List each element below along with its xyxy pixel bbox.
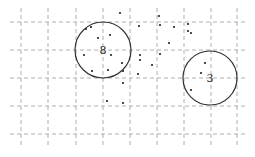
data-point	[204, 62, 206, 64]
data-points	[83, 12, 206, 104]
data-point	[187, 23, 189, 25]
data-point	[122, 102, 124, 104]
data-point	[83, 54, 85, 56]
data-point	[187, 30, 189, 32]
data-point	[121, 62, 123, 64]
data-point	[110, 54, 112, 56]
data-point	[97, 37, 99, 39]
data-point	[139, 54, 141, 56]
data-point	[137, 73, 139, 75]
data-point	[158, 15, 160, 17]
cluster-diagram: 83	[0, 0, 255, 157]
data-point	[168, 42, 170, 44]
data-point	[139, 59, 141, 61]
cluster-count-label: 3	[207, 72, 214, 85]
data-point	[173, 26, 175, 28]
data-point	[190, 89, 192, 91]
data-point	[159, 53, 161, 55]
data-point	[200, 72, 202, 74]
data-point	[107, 69, 109, 71]
data-point	[151, 64, 153, 66]
data-point	[119, 12, 121, 14]
data-point	[159, 24, 161, 26]
cluster-count-label: 8	[100, 44, 107, 57]
data-point	[91, 70, 93, 72]
data-point	[106, 100, 108, 102]
data-point	[90, 26, 92, 28]
data-point	[138, 25, 140, 27]
data-point	[122, 82, 124, 84]
data-point	[190, 32, 192, 34]
data-point	[109, 34, 111, 36]
cluster-circles: 83	[75, 22, 237, 105]
